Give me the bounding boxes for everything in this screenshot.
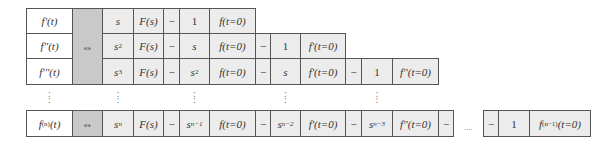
term: − (488, 118, 494, 130)
term: − (260, 118, 266, 130)
minus: − (345, 58, 362, 85)
coef-sn-2: sn−2 (270, 110, 301, 137)
term: − (350, 66, 356, 78)
term: − (168, 40, 174, 52)
lhs-row1: f'(t) (26, 8, 73, 34)
term: − (350, 118, 356, 130)
term: f''(t=0) (400, 66, 431, 78)
term: .... (465, 123, 473, 132)
horizontal-ellipsis: .... (453, 114, 484, 141)
dots: : (284, 97, 287, 103)
term: 1 (511, 118, 517, 130)
initial-f-prime: f'(t=0) (300, 110, 346, 137)
dots: : (376, 97, 379, 103)
initial-f: f(t=0) (209, 110, 256, 137)
exponent: 3 (118, 68, 122, 76)
term: f''(t=0) (400, 118, 431, 130)
term: − (443, 118, 449, 130)
term: f(t=0) (219, 118, 245, 130)
initial-f-n-minus-1: f(n−1)(t=0) (529, 110, 591, 137)
dots: : (193, 97, 196, 103)
exponent: n−2 (282, 120, 294, 128)
term: (t=0) (558, 118, 581, 130)
coef-sn-3: sn−3 (361, 110, 393, 137)
exponent: (n−1) (542, 120, 558, 128)
term: s (192, 40, 196, 52)
minus: − (438, 110, 454, 137)
lhs-row3: f'''(t) (26, 58, 73, 85)
initial-f: f(t=0) (209, 8, 256, 34)
minus: − (163, 58, 180, 85)
double-arrow-icon: ⇔ (82, 118, 93, 130)
coef-sn: sn (102, 110, 134, 137)
minus: − (163, 33, 180, 59)
term: F(s) (139, 118, 157, 130)
term: − (260, 40, 266, 52)
term: f'(t=0) (309, 40, 338, 52)
coef-1: 1 (498, 110, 530, 137)
term: − (168, 66, 174, 78)
term: 1 (374, 66, 380, 78)
coef-s: s (102, 8, 134, 34)
coef-1: 1 (270, 33, 301, 59)
exponent: n (118, 120, 122, 128)
initial-f-double-prime: f''(t=0) (392, 58, 439, 85)
lhs-arg: (t) (50, 118, 60, 130)
dots: : (117, 97, 120, 103)
equivalence-cell: ⇔ (72, 110, 103, 137)
coef-1: 1 (361, 58, 393, 85)
lhs-text: f'(t) (42, 15, 58, 27)
initial-f: f(t=0) (209, 58, 256, 85)
lhs-row-n: f(n)(t) (26, 110, 73, 137)
exponent: n−3 (373, 120, 385, 128)
initial-f-double-prime: f''(t=0) (392, 110, 439, 137)
dots: : (48, 97, 51, 103)
coef-s: s (270, 58, 301, 85)
term: 1 (283, 40, 289, 52)
minus: − (255, 33, 271, 59)
coef-s3: s3 (102, 58, 134, 85)
term: − (260, 66, 266, 78)
vertical-ellipsis: :: (179, 86, 210, 108)
lhs-text: f''(t) (40, 40, 58, 52)
initial-f-prime: f'(t=0) (300, 58, 346, 85)
term: f'(t=0) (309, 66, 338, 78)
coef-s2: s2 (179, 58, 210, 85)
equivalence-cell: ⇔ (72, 8, 103, 85)
term: 1 (192, 15, 198, 27)
term: F(s) (139, 15, 157, 27)
coef-s2: s2 (102, 33, 134, 59)
term: f(t=0) (219, 40, 245, 52)
exponent: (n) (42, 120, 50, 128)
term: f(t=0) (219, 15, 245, 27)
term: F(s) (139, 40, 157, 52)
vertical-ellipsis: :: (270, 86, 301, 108)
minus: − (345, 110, 362, 137)
term: − (168, 15, 174, 27)
coef-1: 1 (179, 8, 210, 34)
vertical-ellipsis: :: (102, 86, 134, 108)
laplace-F: F(s) (133, 8, 164, 34)
minus: − (255, 110, 271, 137)
exponent: n−1 (191, 120, 203, 128)
lhs-row2: f''(t) (26, 33, 73, 59)
coef-s: s (179, 33, 210, 59)
coef-sn-1: sn−1 (179, 110, 210, 137)
lhs-text: f'''(t) (39, 66, 60, 78)
vertical-ellipsis: :: (361, 86, 393, 108)
minus: − (255, 58, 271, 85)
laplace-F: F(s) (133, 58, 164, 85)
term: f'(t=0) (309, 118, 338, 130)
exponent: 2 (118, 42, 122, 50)
double-arrow-icon: ⇔ (82, 41, 93, 53)
minus: − (163, 110, 180, 137)
term: F(s) (139, 66, 157, 78)
term: s (116, 15, 120, 27)
term: − (168, 118, 174, 130)
exponent: 2 (195, 68, 199, 76)
laplace-F: F(s) (133, 33, 164, 59)
term: s (283, 66, 287, 78)
laplace-F: F(s) (133, 110, 164, 137)
initial-f-prime: f'(t=0) (300, 33, 346, 59)
minus: − (163, 8, 180, 34)
